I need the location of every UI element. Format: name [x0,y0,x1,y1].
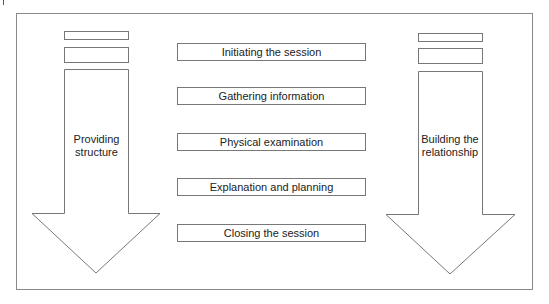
stage-box-gathering: Gathering information [177,87,366,105]
right-arrow-label-line2: relationship [414,146,486,159]
right-arrow-top-bar [419,34,483,42]
left-arrow-second-bar [65,48,129,63]
left-arrow-label: Providing structure [64,133,129,159]
right-arrow-label-line1: Building the [414,133,486,146]
stage-box-explanation: Explanation and planning [177,178,366,196]
stage-box-physical-exam: Physical examination [177,133,366,151]
right-arrow-second-bar [419,49,483,64]
left-arrow [32,70,160,274]
left-arrow-label-line2: structure [64,146,129,159]
stage-box-closing: Closing the session [177,224,366,242]
left-arrow-top-bar [65,32,129,40]
left-arrow-label-line1: Providing [64,133,129,146]
stage-box-initiating: Initiating the session [177,43,366,61]
right-arrow-label: Building the relationship [414,133,486,159]
right-arrow [386,72,515,275]
